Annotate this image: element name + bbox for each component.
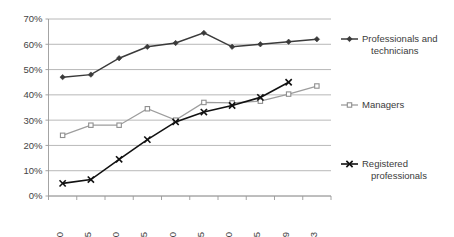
y-tick-label: 20% bbox=[23, 140, 43, 151]
legend-item-1[interactable]: Professionals andtechnicians bbox=[341, 33, 438, 56]
series-line bbox=[63, 33, 317, 77]
x-tick-label: 2013 bbox=[308, 232, 319, 237]
data-point-marker-square bbox=[117, 123, 121, 127]
chart-canvas: 0%10%20%30%40%50%60%70% 1970197519801985… bbox=[0, 0, 454, 237]
x-tick-label: 1975 bbox=[82, 232, 93, 237]
legend-item-label: Managers bbox=[362, 99, 404, 110]
data-point-marker-x bbox=[144, 137, 150, 143]
series-2 bbox=[60, 84, 319, 138]
data-point-marker-diamond bbox=[347, 36, 352, 41]
series-1 bbox=[60, 30, 320, 80]
data-point-marker-square bbox=[89, 123, 93, 127]
data-point-marker-x bbox=[116, 156, 122, 162]
legend-item-label: Registered bbox=[362, 158, 408, 169]
x-tick-label: 1970 bbox=[54, 232, 65, 237]
data-point-marker-diamond bbox=[145, 44, 150, 49]
data-point-marker-square bbox=[286, 92, 290, 96]
data-series bbox=[60, 30, 320, 186]
legend-item-label-line2: professionals bbox=[371, 170, 427, 181]
y-tick-label: 50% bbox=[23, 64, 43, 75]
x-tick-label: 1990 bbox=[167, 232, 178, 237]
series-line bbox=[63, 86, 317, 135]
x-tick-label: 2005 bbox=[251, 232, 262, 237]
data-point-marker-diamond bbox=[314, 37, 319, 42]
axes bbox=[49, 19, 332, 196]
x-axis-tick-labels: 1970197519801985199019952000200520092013 bbox=[54, 232, 319, 237]
legend-item-2[interactable]: Managers bbox=[341, 99, 404, 110]
x-tick-label: 1980 bbox=[110, 232, 121, 237]
x-tick-label: 1985 bbox=[138, 232, 149, 237]
line-chart: 0%10%20%30%40%50%60%70% 1970197519801985… bbox=[0, 0, 454, 237]
y-tick-label: 0% bbox=[29, 190, 43, 201]
y-tick-label: 70% bbox=[23, 13, 43, 24]
data-point-marker-diamond bbox=[286, 39, 291, 44]
x-tick-label: 1995 bbox=[195, 232, 206, 237]
data-point-marker-diamond bbox=[173, 40, 178, 45]
data-point-marker-diamond bbox=[229, 44, 234, 49]
gridlines bbox=[49, 19, 332, 196]
chart-legend: Professionals andtechniciansManagersRegi… bbox=[341, 33, 438, 181]
data-point-marker-square bbox=[202, 100, 206, 104]
data-point-marker-x bbox=[286, 79, 292, 85]
series-line bbox=[63, 82, 289, 183]
y-tick-label: 60% bbox=[23, 39, 43, 50]
legend-item-label-line2: technicians bbox=[371, 45, 419, 56]
x-tick-label: 2000 bbox=[223, 232, 234, 237]
data-point-marker-square bbox=[315, 84, 319, 88]
data-point-marker-square bbox=[145, 107, 149, 111]
legend-item-3[interactable]: Registeredprofessionals bbox=[341, 158, 427, 181]
x-axis-tick-marks bbox=[49, 196, 332, 200]
data-point-marker-square bbox=[347, 103, 351, 107]
y-axis-tick-labels: 0%10%20%30%40%50%60%70% bbox=[23, 13, 48, 201]
x-tick-label: 2009 bbox=[280, 232, 291, 237]
data-point-marker-diamond bbox=[60, 74, 65, 79]
data-point-marker-diamond bbox=[201, 30, 206, 35]
y-tick-label: 30% bbox=[23, 115, 43, 126]
data-point-marker-diamond bbox=[258, 42, 263, 47]
legend-item-label: Professionals and bbox=[362, 33, 438, 44]
y-tick-label: 40% bbox=[23, 89, 43, 100]
data-point-marker-square bbox=[60, 133, 64, 137]
y-tick-label: 10% bbox=[23, 165, 43, 176]
